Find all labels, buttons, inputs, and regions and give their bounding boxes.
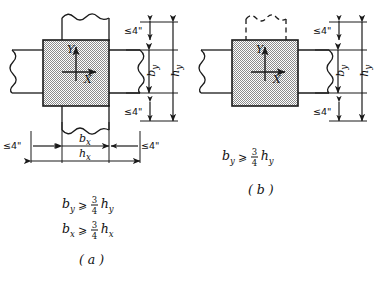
panel-a-equation-bx: bx ⩾ 3 4 hx (62, 221, 114, 241)
break-line-wavy-top-a (62, 14, 109, 20)
panel-a-dim-bx-label: bx (79, 133, 91, 147)
panel-b-dim-hy-label: hy (359, 65, 373, 77)
figure-canvas: Y X ≤4" ≤4" ≤4" ≤4" by hy bx hx by ⩾ 3 4… (0, 0, 381, 282)
panel-a-beam-right (107, 50, 144, 93)
panel-a-column-lower (62, 105, 109, 134)
panel-a-dim-hx-label: hx (79, 148, 91, 162)
panel-a-clearance-right-label: ≤4" (141, 141, 159, 151)
panel-a-dim-by-label: by (146, 65, 160, 77)
break-line-wavy-left-a (10, 50, 16, 93)
panel-b-beam-left (199, 50, 233, 93)
panel-a-axis-y-label: Y (67, 44, 74, 55)
break-line-wavy-right-a (138, 50, 144, 93)
panel-a-equation-by: by ⩾ 3 4 hy (62, 196, 114, 216)
panel-a-clearance-top-label: ≤4" (124, 26, 142, 36)
break-line-wavy-dashed-top-b (246, 15, 286, 21)
panel-b-axis-y-label: Y (256, 44, 263, 55)
panel-a-dim-hy-label: hy (170, 65, 184, 77)
panel-b-beam-right (296, 50, 333, 93)
panel-a-clearance-left-label: ≤4" (3, 141, 21, 151)
panel-a-column-upper (62, 14, 109, 41)
fraction-three-quarters: 3 4 (91, 196, 98, 216)
panel-b-dim-by-label: by (335, 65, 349, 77)
fraction-three-quarters: 3 4 (91, 221, 98, 241)
panel-b-axis-x-label: X (273, 74, 281, 85)
panel-b-column-dashed-stub (246, 15, 286, 41)
break-line-wavy-right-b (327, 50, 333, 93)
panel-b-clearance-top-label: ≤4" (313, 26, 331, 36)
diagram-svg (0, 0, 381, 282)
break-line-wavy-left-b (199, 50, 205, 93)
panel-a-clearance-bottom-label: ≤4" (124, 107, 142, 117)
panel-a-axis-x-label: X (84, 74, 92, 85)
fraction-three-quarters: 3 4 (251, 148, 258, 168)
panel-a-caption: ( a ) (79, 252, 104, 267)
panel-a-beam-left (10, 50, 44, 93)
panel-b-clearance-bottom-label: ≤4" (313, 107, 331, 117)
panel-b-caption: ( b ) (248, 182, 274, 197)
panel-b-equation-by: by ⩾ 3 4 hy (222, 148, 274, 168)
